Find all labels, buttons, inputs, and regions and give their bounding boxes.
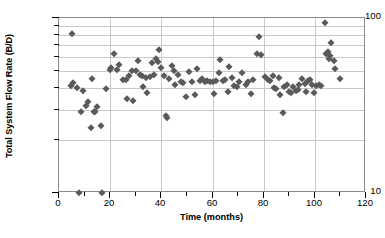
data-point-marker [134, 57, 142, 65]
horizontal-gridline [59, 35, 364, 36]
data-point-marker [97, 123, 105, 131]
vertical-gridline [161, 18, 162, 191]
vertical-gridline [264, 18, 265, 191]
horizontal-gridline [59, 110, 364, 111]
data-point-marker [191, 91, 199, 99]
y-axis-minor-tick [54, 87, 59, 88]
x-axis-minor-tick [186, 192, 187, 196]
scatter-chart-figure: Total System Flow Rate (B/D) 10100020406… [0, 0, 385, 238]
x-axis-tick-label: 40 [155, 197, 166, 208]
horizontal-gridline [59, 71, 364, 72]
x-axis-tick-label: 60 [207, 197, 218, 208]
data-point-marker [279, 110, 287, 118]
plot-area [58, 17, 365, 192]
data-point-marker [330, 57, 338, 65]
y-axis-minor-tick [54, 44, 59, 45]
x-axis-tick-label: 100 [306, 197, 322, 208]
data-point-marker [250, 76, 258, 84]
y-axis-minor-tick [54, 56, 59, 57]
y-axis-minor-tick [54, 25, 59, 26]
data-point-marker [310, 89, 318, 97]
x-axis-title: Time (months) [58, 212, 365, 222]
y-axis-tick-label-text: 100 [365, 10, 381, 21]
x-axis-tick-label: 120 [357, 197, 373, 208]
y-axis-title-text: Total System Flow Rate (B/D) [4, 34, 14, 158]
data-point-marker [188, 78, 196, 86]
x-axis-minor-tick [339, 192, 340, 196]
x-axis-tick-label: 80 [258, 197, 269, 208]
data-point-marker [99, 189, 107, 197]
y-axis-major-tick [52, 17, 59, 18]
y-axis-tick-label-text: 10 [370, 185, 381, 196]
data-point-marker [228, 74, 236, 82]
data-point-marker [76, 189, 84, 197]
horizontal-gridline [59, 57, 364, 58]
data-point-marker [275, 74, 283, 82]
y-axis-title: Total System Flow Rate (B/D) [0, 0, 18, 192]
x-axis-minor-tick [84, 192, 85, 196]
x-axis-tick-label: 20 [104, 197, 115, 208]
horizontal-gridline [59, 45, 364, 46]
vertical-gridline [110, 18, 111, 191]
x-axis-minor-tick [135, 192, 136, 196]
data-point-marker [186, 68, 194, 76]
data-point-marker [337, 75, 345, 83]
data-point-marker [88, 75, 96, 83]
horizontal-gridline [59, 140, 364, 141]
data-point-marker [87, 124, 95, 132]
data-point-marker [210, 90, 218, 98]
y-axis-minor-tick [54, 109, 59, 110]
data-point-marker [225, 63, 233, 71]
data-point-marker [247, 90, 255, 98]
x-axis-minor-tick [288, 192, 289, 196]
vertical-gridline [315, 18, 316, 191]
data-point-marker [143, 89, 151, 97]
data-point-marker [182, 93, 190, 101]
data-point-marker [103, 85, 111, 93]
y-axis-minor-tick [54, 34, 59, 35]
data-point-marker [129, 97, 137, 105]
y-axis-minor-tick [54, 139, 59, 140]
data-point-marker [163, 114, 171, 122]
x-axis-minor-tick [237, 192, 238, 196]
data-point-marker [68, 30, 76, 38]
horizontal-gridline [59, 26, 364, 27]
data-point-marker [276, 91, 284, 99]
vertical-gridline [213, 18, 214, 191]
data-point-marker [165, 75, 173, 83]
y-axis-minor-tick [54, 70, 59, 71]
x-axis-tick-label: 0 [55, 197, 60, 208]
